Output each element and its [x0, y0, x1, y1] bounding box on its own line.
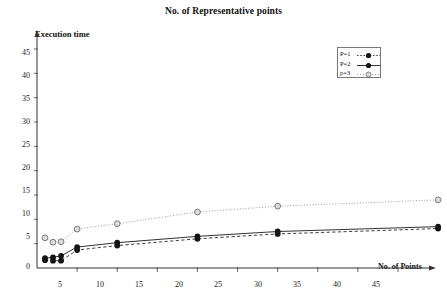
- legend-item-p3: p=3: [340, 70, 380, 79]
- legend-marker-p1: [357, 51, 380, 60]
- legend-marker-p2: [357, 61, 380, 70]
- legend-label-p2: P=2: [340, 60, 351, 67]
- legend-item-p1: P=1: [340, 51, 380, 60]
- chart-figure: No. of Representative points Execution t…: [0, 0, 447, 308]
- legend-marker-p3: [357, 70, 380, 79]
- legend-label-p3: p=3: [340, 69, 350, 76]
- legend-label-p1: P=1: [340, 50, 351, 57]
- legend: P=1 P=2 p=3: [337, 47, 381, 78]
